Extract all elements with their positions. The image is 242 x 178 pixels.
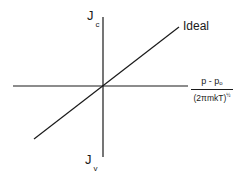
numerator-subscript: o	[219, 80, 222, 86]
ideal-line-label: Ideal	[183, 20, 209, 32]
y-bottom-main: J	[85, 152, 92, 167]
denominator-text: (2πmkT)	[194, 93, 227, 103]
x-label-denominator: (2πmkT)½	[190, 90, 234, 104]
x-axis-label: p - po (2πmkT)½	[190, 76, 234, 104]
y-top-main: J	[87, 8, 94, 23]
denominator-superscript: ½	[226, 92, 230, 98]
y-axis-bottom-label: Jv	[85, 151, 96, 167]
y-axis-top-label: Jc	[87, 7, 98, 23]
x-label-numerator: p - po	[190, 76, 234, 89]
y-top-subscript: c	[96, 20, 100, 29]
ideal-line	[34, 27, 179, 139]
y-bottom-subscript: v	[94, 164, 98, 173]
numerator-text: p - p	[201, 76, 219, 86]
